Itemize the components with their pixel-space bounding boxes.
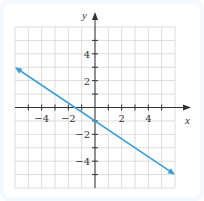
y-axis-label: y [81, 9, 87, 21]
x-axis-arrow-icon [183, 105, 191, 111]
x-tick-label: −2 [61, 113, 76, 124]
y-tick-label: 4 [84, 49, 90, 60]
x-tick-label: 4 [145, 113, 151, 124]
x-tick-label: 2 [118, 113, 124, 124]
y-tick-label: −2 [75, 129, 90, 140]
x-axis-label: x [184, 114, 190, 126]
chart-panel: −4−22442−2−4 x y [0, 0, 204, 201]
coordinate-plane: −4−22442−2−4 x y [0, 0, 204, 201]
line-arrow-left-icon [15, 67, 22, 73]
y-axis-arrow-icon [92, 12, 98, 20]
y-tick-label: −4 [75, 156, 90, 167]
y-tick-label: 2 [84, 76, 90, 87]
x-tick-label: −4 [34, 113, 49, 124]
line-arrow-right-icon [168, 168, 175, 174]
